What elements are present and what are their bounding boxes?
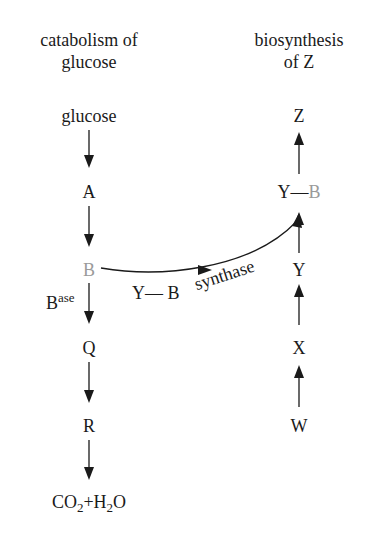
- right-heading-line2: of Z: [284, 52, 315, 72]
- node-a: A: [83, 182, 96, 202]
- end-product-co2-h2o: CO2+H2O: [52, 492, 126, 512]
- connector-label-yb: Y— B: [132, 283, 180, 303]
- node-z: Z: [294, 106, 305, 126]
- right-heading-line1: biosynthesis: [254, 30, 343, 50]
- node-y: Y: [293, 260, 306, 280]
- curved-arrow-b-to-yb: [101, 222, 296, 272]
- left-heading-line2: glucose: [62, 52, 117, 72]
- curved-arrow-end-head: [292, 213, 302, 228]
- node-w: W: [291, 416, 308, 436]
- arrows-layer: [0, 0, 368, 544]
- node-x: X: [293, 338, 306, 358]
- node-q: Q: [83, 338, 96, 358]
- arrow-yb-to-z: [294, 132, 304, 174]
- arrow-x-to-y: [294, 284, 304, 325]
- arrow-w-to-x: [294, 365, 304, 407]
- enzyme-base-superscript: ase: [58, 290, 75, 305]
- arrow-b-to-q: [84, 283, 94, 324]
- enzyme-base-label: Base: [46, 293, 75, 313]
- node-y-b-complex: Y—B: [277, 182, 320, 202]
- arrow-q-to-r: [84, 362, 94, 403]
- node-glucose: glucose: [62, 106, 117, 126]
- arrow-glucose-to-a: [84, 130, 94, 168]
- node-r: R: [83, 416, 95, 436]
- enzyme-base-letter: B: [46, 293, 58, 313]
- left-heading-line1: catabolism of: [40, 30, 137, 50]
- arrow-r-to-co2: [84, 440, 94, 480]
- arrow-a-to-b: [84, 206, 94, 247]
- node-b: B: [83, 260, 95, 280]
